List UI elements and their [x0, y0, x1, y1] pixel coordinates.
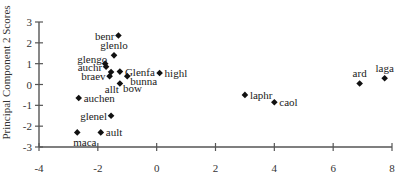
x-tick-label: 2 [213, 162, 219, 174]
point-label: maca [73, 136, 96, 148]
diamond-marker-icon [242, 92, 249, 99]
diamond-marker-icon [97, 129, 104, 136]
diamond-marker-icon [74, 129, 81, 136]
diamond-marker-icon [356, 80, 363, 87]
y-tick-label: -1 [23, 99, 32, 111]
x-tick-label: 4 [272, 162, 278, 174]
diamond-marker-icon [111, 52, 118, 59]
y-tick-label: -3 [23, 141, 33, 153]
x-tick-label: 6 [330, 162, 336, 174]
diamond-marker-icon [115, 32, 122, 39]
point-label: bow [123, 82, 142, 94]
diamond-marker-icon [381, 75, 388, 82]
point-label: highl [165, 67, 188, 79]
y-tick-label: 0 [27, 79, 33, 91]
y-axis-title-group: Principal Component 2 Scores [0, 5, 12, 139]
data-points: benrglenloglengoauchrGlenfabraevbunnahig… [73, 30, 394, 149]
point-label: caol [279, 96, 297, 108]
point-label: ard [353, 67, 368, 79]
point-label: ault [106, 126, 123, 138]
diamond-marker-icon [108, 112, 115, 119]
point-label: auchen [84, 92, 116, 104]
point-label: glenlo [100, 39, 128, 51]
y-tick-label: 3 [27, 16, 33, 28]
point-label: glenel [80, 110, 107, 122]
axes [39, 22, 392, 147]
scatter-chart: Principal Component 2 Scores -4-202468 -… [0, 0, 402, 188]
y-tick-label: 1 [27, 58, 33, 70]
x-tick-label: 8 [389, 162, 395, 174]
diamond-marker-icon [75, 95, 82, 102]
x-tick-label: 0 [154, 162, 160, 174]
point-label: laphr [250, 89, 273, 101]
y-tick-label: -2 [23, 120, 32, 132]
x-tick-label: -4 [34, 162, 44, 174]
y-axis-ticks: -3-2-10123 [23, 16, 43, 153]
y-axis-title: Principal Component 2 Scores [0, 5, 12, 139]
x-tick-label: -2 [93, 162, 102, 174]
diamond-marker-icon [117, 68, 124, 75]
point-label: laga [375, 62, 393, 74]
diamond-marker-icon [156, 70, 163, 77]
point-label: braev [81, 70, 106, 82]
y-tick-label: 2 [27, 37, 33, 49]
